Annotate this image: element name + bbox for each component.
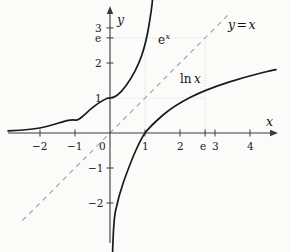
identity-line-label: y=x — [228, 19, 256, 32]
x-tick-label-neg2: −2 — [32, 141, 47, 152]
x-tick-label-0: 0 — [99, 141, 106, 152]
curve-exp — [8, 0, 153, 131]
ln-curve-label: lnx — [180, 73, 201, 85]
identity-label-lhs: y — [228, 17, 235, 32]
x-axis-label: x — [266, 116, 273, 129]
y-axis-label: y — [117, 14, 124, 27]
exp-curve-label-base: e — [158, 33, 165, 47]
y-axis-arrowhead — [107, 6, 113, 14]
y-tick-label-neg2: −2 — [88, 198, 103, 209]
identity-label-equals: = — [235, 17, 248, 32]
plot-canvas — [0, 0, 289, 252]
x-tick-label-1: 1 — [142, 141, 149, 152]
y-tick-label-e: e — [95, 33, 101, 44]
ln-curve-label-variable: x — [194, 72, 201, 86]
x-axis-arrowhead — [270, 130, 278, 136]
y-tick-label-neg1: −1 — [88, 163, 103, 174]
axes — [8, 12, 272, 243]
identity-line-y-equals-x — [23, 12, 231, 220]
exp-curve-label: ex — [158, 33, 170, 46]
x-tick-label-4: 4 — [247, 141, 254, 152]
function-plot-figure: −2 −1 0 1 2 e 3 4 3 e 2 1 −1 −2 x y ex l… — [0, 0, 289, 252]
x-tick-label-neg1: −1 — [67, 141, 82, 152]
x-tick-label-2: 2 — [177, 141, 184, 152]
x-tick-label-e: e — [200, 141, 206, 152]
ln-curve-label-operator: ln — [180, 72, 192, 86]
exp-curve-label-exponent: x — [166, 32, 171, 41]
y-tick-label-1: 1 — [95, 93, 102, 104]
identity-label-rhs: x — [249, 17, 256, 32]
y-tick-label-2: 2 — [95, 58, 102, 69]
x-tick-label-3: 3 — [212, 141, 219, 152]
curve-ln — [113, 70, 276, 252]
